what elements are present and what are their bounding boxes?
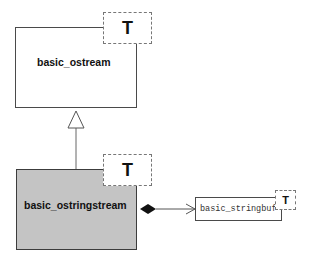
- class-name-basic-ostringstream: basic_ostringstream: [24, 199, 127, 211]
- class-name-basic-stringbuf: basic_stringbuf: [200, 204, 277, 214]
- composition-diamond-icon: [140, 204, 156, 214]
- class-name-basic-ostream: basic_ostream: [37, 56, 111, 68]
- template-param-basic-ostream: T: [103, 12, 152, 44]
- template-param-basic-stringbuf: T: [275, 190, 296, 210]
- inheritance-triangle-icon: [68, 111, 84, 128]
- uml-class-diagram: basic_ostream T basic_ostringstream T ba…: [0, 0, 310, 261]
- template-param-basic-ostringstream: T: [103, 154, 152, 186]
